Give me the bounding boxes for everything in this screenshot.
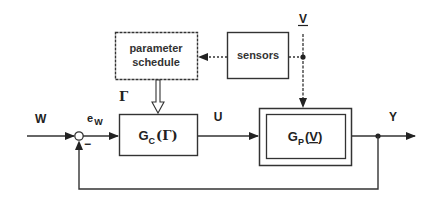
sensors-label: sensors — [237, 49, 279, 61]
parameter-schedule-block: parameter schedule — [116, 33, 198, 80]
arrowhead-icon — [299, 98, 307, 108]
v-to-plant-arrow — [299, 34, 307, 108]
feedback-path — [75, 136, 378, 189]
controller-block: GC(Γ) — [120, 115, 198, 156]
controller-label: GC(Γ) — [138, 128, 177, 146]
gamma-hollow-arrow — [152, 80, 164, 113]
scheduling-param-label: Γ — [119, 89, 129, 104]
parameter-schedule-label-line2: schedule — [132, 56, 180, 68]
sensors-to-schedule-arrow — [198, 53, 227, 61]
gain-scheduling-block-diagram: parameter schedule sensors V Γ GC(Γ) W — [0, 0, 436, 203]
reference-label: W — [35, 112, 47, 126]
summing-junction — [75, 132, 83, 140]
control-label: U — [214, 110, 223, 124]
minus-sign: − — [84, 137, 91, 151]
v-branch-dot — [300, 54, 305, 59]
plant-label: GP(V) — [288, 129, 323, 147]
plant-block: GP(V) — [260, 109, 352, 166]
arrowhead-icon — [198, 53, 208, 61]
error-label: eW — [87, 112, 103, 127]
arrowhead-icon — [75, 141, 83, 151]
sensors-block: sensors — [228, 33, 289, 79]
operating-condition-label: V — [298, 12, 308, 26]
parameter-schedule-label-line1: parameter — [129, 42, 183, 54]
output-label: Y — [389, 110, 397, 124]
svg-text:V: V — [299, 12, 307, 26]
